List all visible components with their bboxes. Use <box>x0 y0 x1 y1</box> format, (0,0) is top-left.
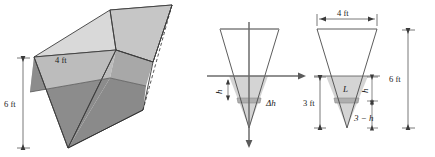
dims-water-depth-label: 3 ft <box>303 98 315 108</box>
dims-h-label: h <box>360 88 370 93</box>
prism-height-label: 6 ft <box>4 99 16 109</box>
panel-cross-section-axes: h Δh <box>207 22 306 148</box>
figure-svg: 4 ft 6 ft <box>0 0 435 157</box>
dims-three-minus-h-label: 3 − h <box>353 113 374 123</box>
axes-h-label: h <box>214 89 224 94</box>
dims-total-height-label: 6 ft <box>389 74 401 84</box>
figure-canvas: 4 ft 6 ft <box>0 0 435 157</box>
panel-3d-prism: 4 ft 6 ft <box>4 5 172 150</box>
dims-L-label: L <box>342 84 348 94</box>
axes-delta-h-label: Δh <box>265 98 276 108</box>
axes-x-arrow <box>298 73 306 80</box>
dims-water-depth-dimension: 3 ft <box>303 75 326 130</box>
prism-height-dimension: 6 ft <box>4 56 30 150</box>
dims-three-minus-h-dimension: 3 − h <box>353 101 378 131</box>
axes-h-dimension: h <box>214 79 230 101</box>
dims-top-width-dimension: 4 ft <box>317 8 377 26</box>
dims-total-height-dimension: 6 ft <box>389 28 415 130</box>
panel-cross-section-dims: 4 ft 6 ft 3 ft L <box>303 8 415 130</box>
dims-top-width-label: 4 ft <box>337 8 349 18</box>
axes-y-arrow <box>246 140 253 148</box>
prism-width-label: 4 ft <box>55 55 67 65</box>
